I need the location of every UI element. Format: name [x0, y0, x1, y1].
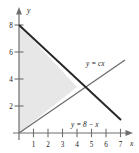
x-tick-label-5: 5 — [90, 141, 94, 149]
label-line-y-equals-cx: y = cx — [85, 59, 105, 68]
shaded-feasible-region — [19, 25, 77, 133]
x-tick-label-1: 1 — [32, 141, 36, 149]
x-tick-label-7: 7 — [119, 141, 123, 149]
y-tick-label-2: 2 — [9, 103, 13, 111]
y-axis-label: y — [26, 6, 31, 15]
x-axis-arrowhead — [126, 130, 134, 136]
y-tick-label-8: 8 — [9, 22, 13, 30]
x-axis-label: x — [129, 139, 134, 148]
coordinate-plane-svg: 2 4 6 8 1 2 3 4 5 6 7 y x y = cx y = 8 −… — [0, 0, 139, 153]
x-tick-label-4: 4 — [75, 141, 79, 149]
label-line-y-equals-8-minus-x: y = 8 − x — [70, 120, 99, 129]
x-tick-label-6: 6 — [104, 141, 108, 149]
y-tick-label-6: 6 — [9, 49, 13, 57]
x-tick-label-2: 2 — [46, 141, 50, 149]
y-axis-arrowhead — [16, 7, 22, 15]
x-tick-label-3: 3 — [61, 141, 65, 149]
graph-figure: 2 4 6 8 1 2 3 4 5 6 7 y x y = cx y = 8 −… — [0, 0, 139, 153]
y-tick-label-4: 4 — [9, 76, 13, 84]
